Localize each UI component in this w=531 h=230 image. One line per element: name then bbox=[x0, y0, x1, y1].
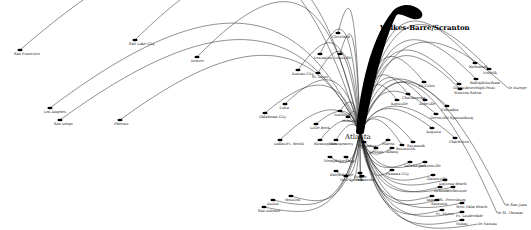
city-label: Louisville bbox=[334, 56, 351, 60]
city-label: Melbourne bbox=[447, 189, 467, 193]
city-label: Greenville-Spartanburg bbox=[430, 116, 474, 120]
city-label: San Diego bbox=[54, 122, 73, 126]
city-label: Winston-Salem bbox=[454, 91, 482, 95]
city-label: Augusta bbox=[425, 130, 442, 134]
city-label: San Antonio bbox=[258, 209, 280, 213]
city-label: Oklahoma City bbox=[259, 115, 287, 119]
city-label: Huntsville bbox=[342, 119, 361, 123]
city-label: Ft. Lauderdale bbox=[456, 214, 483, 218]
city-label: Brunswick bbox=[396, 147, 416, 151]
city-label: Macon bbox=[382, 142, 395, 146]
city-label: Raleigh/Durham bbox=[470, 81, 501, 85]
flow-line bbox=[60, 40, 360, 132]
flow-map: San FranciscoSalt Lake CityDenverLos Ang… bbox=[0, 0, 531, 230]
city-label: St. Louis bbox=[312, 75, 328, 79]
city-label: Charleston bbox=[449, 140, 470, 144]
city-label: Columbus bbox=[358, 144, 376, 148]
hub-label: Atlanta bbox=[344, 133, 371, 141]
flow-line bbox=[120, 55, 360, 132]
city-markers: San FranciscoSalt Lake CityDenverLos Ang… bbox=[14, 32, 527, 226]
city-label: Lexington bbox=[314, 56, 333, 60]
city-label: Chattanooga bbox=[402, 96, 426, 100]
city-label: Pensacola bbox=[356, 178, 375, 182]
city-label: Asheville bbox=[418, 102, 436, 106]
city-label: To Europe bbox=[508, 86, 527, 90]
city-label: To Nassau bbox=[478, 222, 498, 226]
flow-line bbox=[135, 0, 360, 132]
city-label: Jacksonville bbox=[418, 164, 441, 168]
city-label: San Francisco bbox=[14, 52, 40, 56]
city-label: Denver bbox=[191, 59, 204, 63]
major-flow-label: Wilkes-Barre/Scranton bbox=[379, 23, 470, 32]
city-label: Knoxville bbox=[391, 102, 408, 106]
flow-line bbox=[360, 109, 432, 132]
city-label: Columbia bbox=[441, 108, 459, 112]
city-label: Richmond bbox=[469, 65, 488, 69]
city-label: To St. Thomas bbox=[497, 211, 523, 215]
city-label: Austin bbox=[266, 202, 279, 206]
city-label: Los Angeles bbox=[44, 110, 66, 114]
city-label: Norfolk bbox=[483, 71, 498, 75]
city-label: Little Rock bbox=[310, 126, 331, 130]
city-label: Tulsa bbox=[279, 106, 290, 110]
city-label: Cleveland bbox=[332, 35, 351, 39]
city-label: Albany bbox=[385, 150, 400, 154]
city-label: Daytona Beach bbox=[439, 182, 467, 186]
city-label: Sarasota bbox=[431, 202, 448, 206]
city-label: Baton Rouge bbox=[330, 173, 353, 177]
city-label: Jackson bbox=[339, 159, 355, 163]
city-label: To San Juan bbox=[505, 203, 527, 207]
flow-line bbox=[360, 119, 402, 145]
city-label: West Palm Beach bbox=[456, 205, 488, 209]
city-label: Miami bbox=[456, 222, 468, 226]
city-label: Dothan bbox=[370, 150, 384, 154]
city-label: Houston bbox=[285, 198, 301, 202]
city-label: Memphis bbox=[324, 159, 341, 163]
city-label: Dallas/Ft. Worth bbox=[274, 142, 305, 146]
city-label: Montgomery bbox=[330, 142, 354, 146]
city-label: Phoenix bbox=[114, 122, 129, 126]
city-label: Salt Lake City bbox=[129, 42, 156, 46]
city-label: Tri-Cities bbox=[418, 84, 435, 88]
city-label: Ft. Myers bbox=[436, 212, 454, 216]
city-label: Panama City bbox=[386, 172, 410, 176]
